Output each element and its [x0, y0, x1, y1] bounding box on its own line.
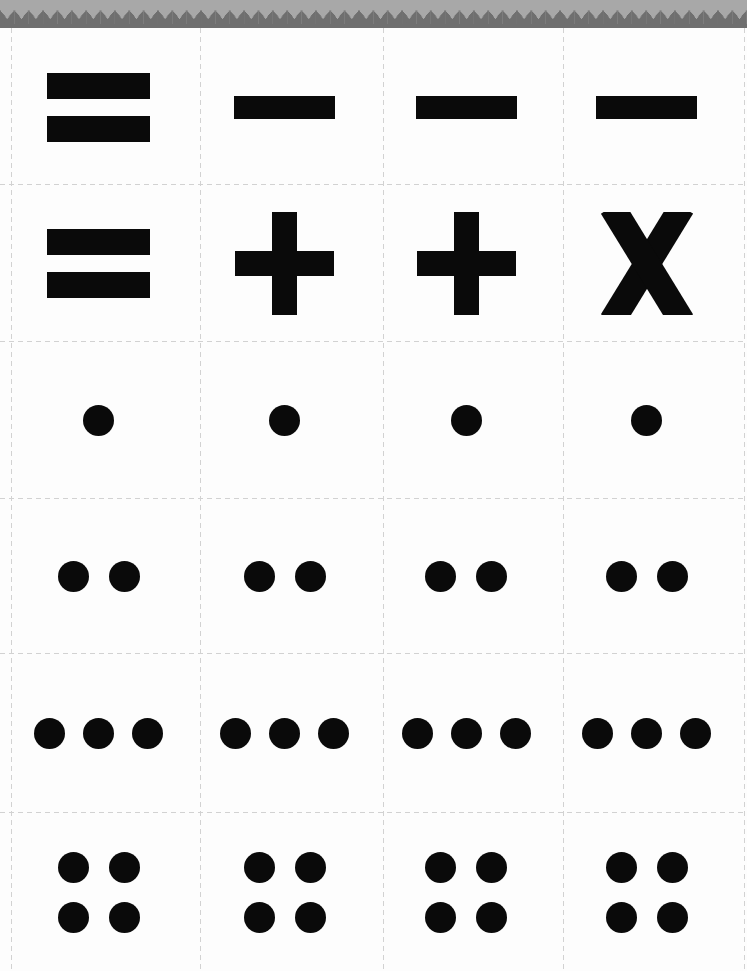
cut-line-vertical — [744, 28, 745, 971]
dot-icon — [83, 405, 114, 436]
plus-sign-icon — [417, 212, 516, 315]
equals-sign-icon — [47, 73, 150, 142]
zigzag-teeth — [0, 10, 747, 28]
two-dots-icon — [58, 561, 140, 592]
dot-icon — [631, 405, 662, 436]
card-dots-4 — [563, 812, 744, 971]
dot-icon — [109, 561, 140, 592]
card-dots-1 — [563, 341, 744, 498]
dot-icon — [244, 852, 275, 883]
card-equals — [11, 28, 200, 184]
three-dots-icon — [582, 718, 711, 749]
dot-icon — [631, 718, 662, 749]
dot-icon — [109, 902, 140, 933]
one-dot-icon — [451, 405, 482, 436]
card-dots-3 — [383, 653, 563, 812]
dot-icon — [318, 718, 349, 749]
dot-icon — [476, 561, 507, 592]
card-plus — [200, 184, 383, 341]
one-dot-icon — [631, 405, 662, 436]
card-multiply — [563, 184, 744, 341]
minus-sign-icon — [596, 96, 697, 119]
three-dots-icon — [34, 718, 163, 749]
dot-icon — [451, 405, 482, 436]
dot-icon — [220, 718, 251, 749]
dot-icon — [425, 902, 456, 933]
minus-sign-icon — [234, 96, 335, 119]
dot-icon — [58, 561, 89, 592]
dot-icon — [657, 852, 688, 883]
dot-icon — [295, 902, 326, 933]
torn-edge — [0, 0, 747, 28]
card-dots-4 — [200, 812, 383, 971]
three-dots-icon — [402, 718, 531, 749]
four-dots-icon — [606, 852, 688, 933]
equals-bar — [47, 116, 150, 142]
dot-icon — [582, 718, 613, 749]
dot-icon — [425, 852, 456, 883]
dot-icon — [244, 902, 275, 933]
one-dot-icon — [83, 405, 114, 436]
card-minus — [383, 28, 563, 184]
minus-sign-icon — [416, 96, 517, 119]
dot-icon — [680, 718, 711, 749]
multiplication-x-icon — [600, 212, 693, 315]
card-dots-4 — [383, 812, 563, 971]
equals-bar — [47, 272, 150, 298]
equals-bar — [47, 73, 150, 99]
card-dots-2 — [383, 498, 563, 653]
dot-icon — [109, 852, 140, 883]
card-dots-1 — [383, 341, 563, 498]
card-dots-3 — [200, 653, 383, 812]
dot-icon — [606, 561, 637, 592]
dot-icon — [476, 852, 507, 883]
four-dots-icon — [244, 852, 326, 933]
dot-icon — [58, 852, 89, 883]
card-dots-3 — [563, 653, 744, 812]
four-dots-icon — [58, 852, 140, 933]
card-dots-2 — [200, 498, 383, 653]
dot-icon — [295, 852, 326, 883]
card-dots-2 — [563, 498, 744, 653]
two-dots-icon — [244, 561, 326, 592]
card-dots-1 — [11, 341, 200, 498]
card-dots-3 — [11, 653, 200, 812]
dot-icon — [58, 902, 89, 933]
card-minus — [563, 28, 744, 184]
dot-icon — [500, 718, 531, 749]
equals-bar — [47, 229, 150, 255]
one-dot-icon — [269, 405, 300, 436]
card-dots-2 — [11, 498, 200, 653]
card-minus — [200, 28, 383, 184]
dot-icon — [402, 718, 433, 749]
dot-icon — [244, 561, 275, 592]
card-equals — [11, 184, 200, 341]
dot-icon — [606, 902, 637, 933]
cut-sheet — [0, 0, 747, 971]
dot-icon — [451, 718, 482, 749]
dot-icon — [83, 718, 114, 749]
dot-icon — [657, 902, 688, 933]
dot-icon — [132, 718, 163, 749]
dot-icon — [657, 561, 688, 592]
two-dots-icon — [425, 561, 507, 592]
card-dots-1 — [200, 341, 383, 498]
dot-icon — [476, 902, 507, 933]
dot-icon — [269, 718, 300, 749]
dot-icon — [269, 405, 300, 436]
card-dots-4 — [11, 812, 200, 971]
plus-sign-icon — [235, 212, 334, 315]
three-dots-icon — [220, 718, 349, 749]
dot-icon — [295, 561, 326, 592]
dot-icon — [606, 852, 637, 883]
equals-sign-icon — [47, 229, 150, 298]
dot-icon — [34, 718, 65, 749]
four-dots-icon — [425, 852, 507, 933]
two-dots-icon — [606, 561, 688, 592]
card-plus — [383, 184, 563, 341]
dot-icon — [425, 561, 456, 592]
